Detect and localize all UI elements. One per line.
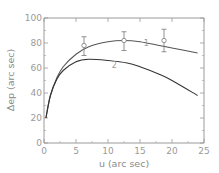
data-point — [122, 32, 127, 51]
curve-label-1: 1 — [144, 39, 149, 48]
data-point — [162, 29, 167, 52]
x-tick-label: 5 — [73, 146, 79, 156]
x-tick-label: 15 — [134, 146, 145, 156]
data-point — [82, 37, 87, 56]
y-tick-label: 40 — [31, 88, 43, 98]
y-tick-label: 20 — [31, 113, 43, 123]
x-tick-label: 10 — [102, 146, 114, 156]
y-tick-label: 100 — [25, 13, 42, 23]
curve-2 — [46, 59, 198, 118]
curve-1 — [46, 41, 198, 119]
data-points — [82, 29, 167, 55]
y-tick-label: 0 — [36, 138, 42, 148]
x-tick-label: 0 — [41, 146, 47, 156]
axes: 0510152025020406080100 — [25, 13, 210, 156]
chart: 0510152025020406080100 12 u (arc sec) Δe… — [0, 0, 219, 173]
x-tick-label: 20 — [166, 146, 178, 156]
x-tick-label: 25 — [198, 146, 209, 156]
y-tick-label: 60 — [31, 63, 43, 73]
curve-label-2: 2 — [112, 61, 117, 70]
y-tick-label: 80 — [31, 38, 43, 48]
x-axis-title: u (arc sec) — [99, 158, 149, 169]
y-axis-title: Δep (arc sec) — [5, 49, 16, 112]
